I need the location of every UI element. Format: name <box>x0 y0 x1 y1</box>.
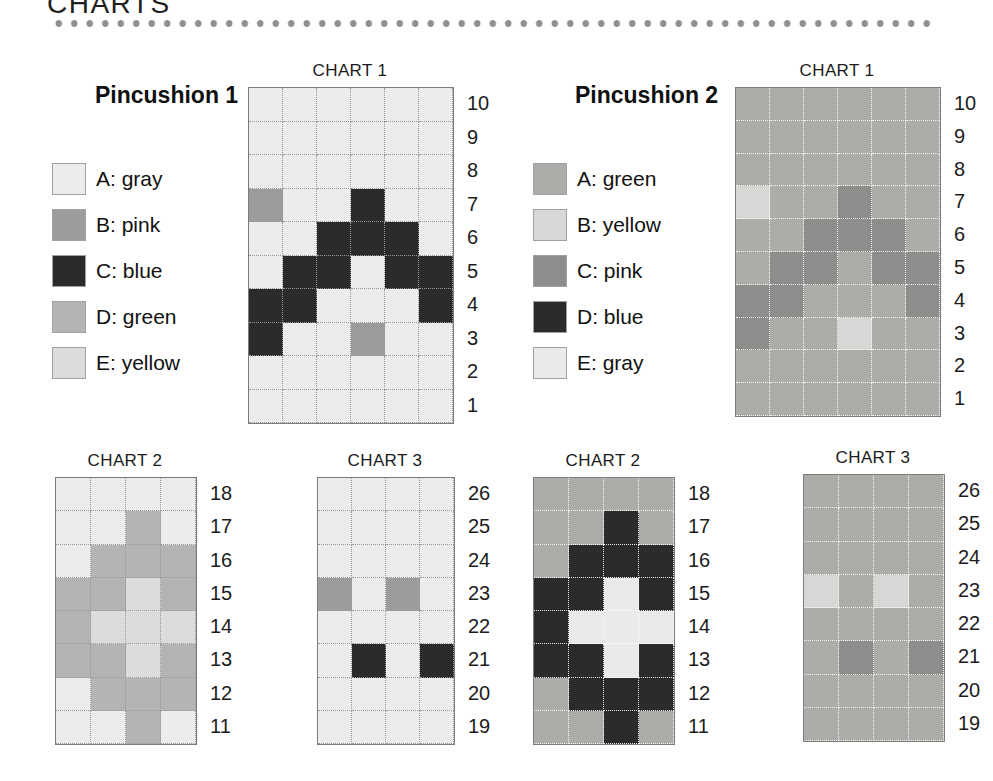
chart-cell <box>909 475 944 508</box>
chart-cell <box>874 641 909 674</box>
chart-cell <box>838 318 872 351</box>
row-number: 1 <box>954 382 976 415</box>
chart-cell <box>804 121 838 154</box>
chart-cell <box>126 711 161 744</box>
chart-cell <box>569 478 604 511</box>
chart-cell <box>906 121 940 154</box>
chart-cell <box>126 478 161 511</box>
legend-label: A: green <box>577 167 656 191</box>
chart-cell <box>385 323 419 357</box>
chart-cell <box>91 578 126 611</box>
chart-cell <box>804 252 838 285</box>
chart-title: CHART 2 <box>55 450 195 477</box>
row-number: 7 <box>467 188 489 222</box>
chart-3: CHART 32625242322212019 <box>803 447 980 742</box>
legend-item: E: gray <box>533 347 733 379</box>
chart-cell <box>419 323 453 357</box>
chart-cell <box>804 219 838 252</box>
row-number: 10 <box>467 87 489 121</box>
chart-cell <box>838 154 872 187</box>
chart-cell <box>770 252 804 285</box>
legend-item: D: blue <box>533 301 733 333</box>
chart-cell <box>317 155 351 189</box>
chart-cell <box>385 222 419 256</box>
row-number: 11 <box>688 710 710 743</box>
chart-cell <box>351 356 385 390</box>
chart-cell <box>317 222 351 256</box>
legend-label: A: gray <box>96 167 163 191</box>
chart-cell <box>770 88 804 121</box>
row-number: 5 <box>467 255 489 289</box>
chart-cell <box>639 545 674 578</box>
chart-3: CHART 32625242322212019 <box>317 450 490 745</box>
chart-cell <box>352 545 386 578</box>
chart-cell <box>249 256 283 290</box>
row-number: 3 <box>467 322 489 356</box>
chart-cell <box>283 222 317 256</box>
chart-cell <box>161 711 196 744</box>
chart-cell <box>352 611 386 644</box>
legend-label: E: yellow <box>96 351 180 375</box>
row-number: 20 <box>468 677 490 710</box>
chart-cell <box>318 711 352 744</box>
chart-cell <box>906 318 940 351</box>
chart-cell <box>249 88 283 122</box>
row-number: 19 <box>958 707 980 740</box>
chart-cell <box>736 252 770 285</box>
row-number: 17 <box>688 510 710 543</box>
chart-cell <box>56 711 91 744</box>
chart-cell <box>872 154 906 187</box>
chart-cell <box>736 88 770 121</box>
chart-grid <box>803 474 945 742</box>
chart-cell <box>126 611 161 644</box>
legend-swatch <box>533 347 567 379</box>
chart-cell <box>534 678 569 711</box>
chart-cell <box>874 542 909 575</box>
chart-cell <box>419 222 453 256</box>
chart-cell <box>838 186 872 219</box>
legend-swatch <box>52 301 86 333</box>
chart-cell <box>804 350 838 383</box>
chart-cell <box>283 155 317 189</box>
chart-cell <box>906 88 940 121</box>
row-number: 8 <box>467 154 489 188</box>
chart-cell <box>804 88 838 121</box>
chart-cell <box>804 475 839 508</box>
chart-cell <box>770 154 804 187</box>
row-number: 20 <box>958 674 980 707</box>
row-number: 6 <box>467 221 489 255</box>
chart-cell <box>351 323 385 357</box>
legend: A: greenB: yellowC: pinkD: blueE: gray <box>533 163 733 393</box>
chart-cell <box>249 323 283 357</box>
chart-cell <box>604 678 639 711</box>
legend-swatch <box>52 163 86 195</box>
chart-cell <box>351 222 385 256</box>
chart-cell <box>838 88 872 121</box>
chart-cell <box>126 644 161 677</box>
chart-cell <box>770 219 804 252</box>
chart-cell <box>161 578 196 611</box>
chart-cell <box>909 708 944 741</box>
chart-cell <box>318 545 352 578</box>
row-number: 15 <box>688 577 710 610</box>
chart-2: CHART 21817161514131211 <box>55 450 232 745</box>
chart-cell <box>91 611 126 644</box>
row-number: 13 <box>688 643 710 676</box>
chart-cell <box>534 611 569 644</box>
chart-cell <box>906 219 940 252</box>
chart-cell <box>283 289 317 323</box>
chart-cell <box>351 88 385 122</box>
pincushion-title: Pincushion 2 <box>575 82 718 109</box>
chart-cell <box>839 575 874 608</box>
chart-cell <box>351 390 385 424</box>
chart-cell <box>91 478 126 511</box>
chart-cell <box>770 318 804 351</box>
chart-cell <box>419 356 453 390</box>
chart-cell <box>283 88 317 122</box>
chart-cell <box>874 708 909 741</box>
chart-cell <box>736 154 770 187</box>
legend-swatch <box>52 255 86 287</box>
chart-cell <box>318 678 352 711</box>
chart-cell <box>604 611 639 644</box>
chart-cell <box>804 542 839 575</box>
